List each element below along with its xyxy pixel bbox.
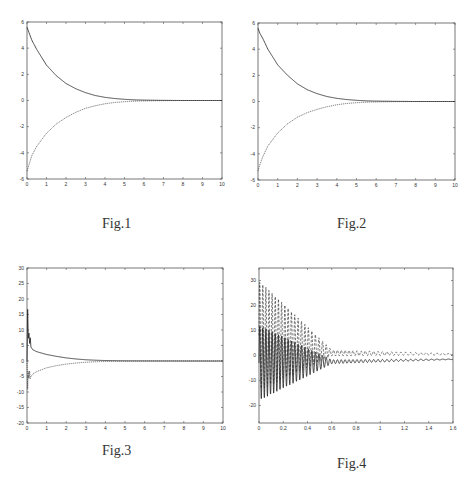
x-tick-label: 0.2 [280, 425, 287, 431]
x-tick-label: 1 [379, 425, 382, 431]
figure-4: 00.20.40.60.811.21.41.63020100-10-20 [0, 0, 471, 440]
y-tick-label: -20 [249, 402, 256, 408]
x-tick-label: 0 [258, 425, 261, 431]
caption-fig4: Fig.4 [337, 456, 366, 472]
y-tick-label: 20 [250, 302, 256, 308]
caption-fig3: Fig.3 [102, 443, 131, 459]
x-tick-label: 0.6 [328, 425, 335, 431]
y-tick-label: -10 [249, 377, 256, 383]
x-tick-label: 1.2 [401, 425, 408, 431]
x-tick-label: 0.4 [304, 425, 311, 431]
y-tick-label: 30 [250, 277, 256, 283]
x-tick-label: 0.8 [353, 425, 360, 431]
y-tick-label: 0 [253, 352, 256, 358]
chart-fig4: 00.20.40.60.811.21.41.63020100-10-20 [0, 0, 471, 440]
y-tick-label: 10 [250, 327, 256, 333]
x-tick-label: 1.4 [425, 425, 432, 431]
x-tick-label: 1.6 [450, 425, 457, 431]
series-dashed-oscillation [259, 283, 453, 389]
series-solid-oscillation [259, 327, 453, 399]
